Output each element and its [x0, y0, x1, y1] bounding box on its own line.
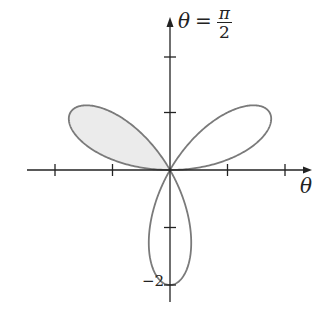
- y-axis: [164, 17, 176, 302]
- fraction-denominator: 2: [217, 23, 232, 41]
- graph-canvas: [0, 0, 332, 316]
- y-axis-arrow-icon: [167, 17, 174, 27]
- theta-symbol: θ: [178, 9, 190, 33]
- fraction-numerator: π: [217, 4, 232, 23]
- tick-label-minus-2: −2: [142, 272, 164, 290]
- polar-graph: θ=π2 θ −2: [0, 0, 332, 316]
- x-axis-label: θ: [300, 174, 312, 198]
- x-axis-arrow-icon: [303, 167, 312, 174]
- fraction: π2: [217, 4, 232, 41]
- shaded-lobe: [69, 105, 170, 170]
- equals-sign: =: [195, 9, 212, 33]
- y-axis-label: θ=π2: [178, 4, 232, 41]
